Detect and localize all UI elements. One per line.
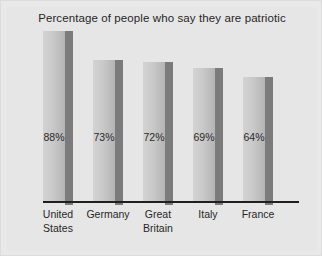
- bar-group: 73%: [93, 60, 123, 201]
- x-axis-label: UnitedStates: [32, 207, 84, 235]
- bar-value-label: 64%: [243, 131, 265, 143]
- bar-group: 72%: [143, 62, 173, 201]
- x-axis-label-line: Britain: [132, 221, 184, 235]
- bar-group: 88%: [43, 31, 73, 201]
- bar-value-label: 69%: [193, 131, 215, 143]
- x-axis-label-line: Great: [132, 207, 184, 221]
- bar-shadow: [215, 68, 223, 205]
- x-axis-label-line: Italy: [182, 207, 234, 221]
- x-axis-label-line: States: [32, 221, 84, 235]
- x-axis-label-line: France: [232, 207, 284, 221]
- bar-value-label: 72%: [143, 131, 165, 143]
- bar-shadow: [165, 62, 173, 205]
- x-axis-label: France: [232, 207, 284, 221]
- bar-group: 69%: [193, 68, 223, 201]
- bar: [43, 31, 65, 201]
- bar-value-label: 73%: [93, 131, 115, 143]
- chart-container: Percentage of people who say they are pa…: [0, 0, 322, 256]
- x-axis-label: Germany: [82, 207, 134, 221]
- x-axis-label: GreatBritain: [132, 207, 184, 235]
- bar-group: 64%: [243, 77, 273, 201]
- bar-shadow: [65, 31, 73, 205]
- x-axis-label-line: Germany: [82, 207, 134, 221]
- bar-shadow: [265, 77, 273, 205]
- x-axis-label-line: United: [32, 207, 84, 221]
- x-axis-line: [43, 201, 299, 203]
- x-axis-label: Italy: [182, 207, 234, 221]
- bar-value-label: 88%: [43, 131, 65, 143]
- bar-shadow: [115, 60, 123, 205]
